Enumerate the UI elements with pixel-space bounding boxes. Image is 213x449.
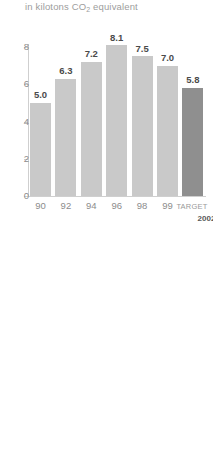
bar-96[interactable] bbox=[106, 45, 127, 196]
bar-target[interactable] bbox=[182, 88, 203, 196]
bar-value-label: 7.5 bbox=[135, 44, 148, 54]
bar-column[interactable]: 5.8 bbox=[182, 88, 203, 196]
x-axis-label-target: TARGET2002 bbox=[176, 201, 213, 223]
y-axis-tick-label: 8 bbox=[7, 42, 29, 52]
bar-column[interactable]: 8.1 bbox=[106, 45, 127, 196]
y-axis-tick-label: 2 bbox=[7, 154, 29, 164]
bar-value-label: 7.2 bbox=[85, 49, 98, 59]
bar-value-label: 7.0 bbox=[161, 53, 174, 63]
bar-column[interactable]: 7.5 bbox=[132, 56, 153, 196]
y-axis-tick-label: 6 bbox=[7, 80, 29, 90]
bar-92[interactable] bbox=[55, 79, 76, 196]
x-axis-line bbox=[28, 196, 206, 197]
bar-98[interactable] bbox=[132, 56, 153, 196]
bar-column[interactable]: 6.3 bbox=[55, 79, 76, 196]
bar-value-label: 5.0 bbox=[34, 90, 47, 100]
target-year-label: 2002 bbox=[176, 214, 213, 223]
bar-column[interactable]: 7.0 bbox=[157, 66, 178, 196]
bar-column[interactable]: 5.0 bbox=[30, 103, 51, 196]
bar-column[interactable]: 7.2 bbox=[81, 62, 102, 196]
y-axis-tick-label: 4 bbox=[7, 117, 29, 127]
y-axis-tick-label: 0 bbox=[7, 191, 29, 201]
bar-90[interactable] bbox=[30, 103, 51, 196]
target-word-label: TARGET bbox=[176, 202, 207, 211]
bar-value-label: 6.3 bbox=[59, 66, 72, 76]
bar-chart-plot-area: 02468 5.06.37.28.17.57.05.8 909294969899… bbox=[0, 0, 213, 232]
bar-value-label: 8.1 bbox=[110, 33, 123, 43]
bar-value-label: 5.8 bbox=[186, 75, 199, 85]
bar-94[interactable] bbox=[81, 62, 102, 196]
bar-99[interactable] bbox=[157, 66, 178, 196]
